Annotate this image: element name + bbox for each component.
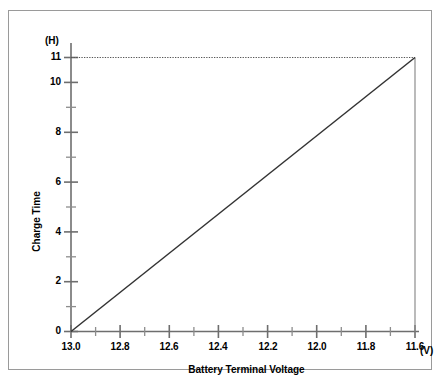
x-tick-label-11-8: 11.8 — [346, 341, 386, 352]
y-tick-label-10: 10 — [19, 76, 61, 87]
y-tick-label-0: 0 — [19, 325, 61, 336]
y-tick-label-11: 11 — [19, 51, 61, 62]
x-axis-title: Battery Terminal Voltage — [79, 364, 414, 375]
data-series-line — [71, 58, 415, 332]
y-axis-title: Charge Time — [31, 177, 42, 267]
x-tick-label-12-2: 12.2 — [248, 341, 288, 352]
y-axis-unit-label: (H) — [45, 35, 59, 46]
x-tick-label-12-8: 12.8 — [100, 341, 140, 352]
x-tick-label-12-0: 12.0 — [297, 341, 337, 352]
figure-border-frame: (H) Charge Time 11 10 8 6 4 2 0 13.0 12.… — [8, 10, 432, 370]
x-axis-unit-label: (V) — [420, 345, 433, 356]
x-tick-label-12-4: 12.4 — [198, 341, 238, 352]
chart-figure: (H) Charge Time 11 10 8 6 4 2 0 13.0 12.… — [0, 0, 447, 378]
x-tick-label-12-6: 12.6 — [149, 341, 189, 352]
y-tick-label-8: 8 — [19, 126, 61, 137]
chart-plot-area — [9, 11, 431, 369]
x-tick-label-13-0: 13.0 — [51, 341, 91, 352]
y-tick-label-6: 6 — [19, 176, 61, 187]
y-tick-label-2: 2 — [19, 275, 61, 286]
y-tick-label-4: 4 — [19, 226, 61, 237]
